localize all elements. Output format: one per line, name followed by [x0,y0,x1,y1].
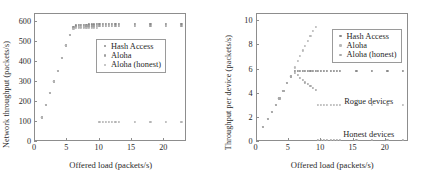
data-point [105,121,107,123]
x-tick-label: 20 [381,143,389,152]
y-tick-label: 600 [10,17,31,26]
y-tick [256,117,259,118]
y-tick [34,41,37,42]
legend-item: Aloha [100,51,161,60]
data-point [307,40,309,42]
y-tick-label: 0 [232,137,253,146]
data-point [98,25,100,27]
data-point [326,103,328,105]
data-point [320,70,322,72]
y-tick [256,69,259,70]
legend-dot-icon [104,64,106,66]
y-tick [34,121,37,122]
data-point [134,121,136,123]
data-point [302,49,304,51]
data-point [118,121,120,123]
y-tick-label: 200 [10,97,31,106]
data-point [329,70,331,72]
data-point [323,103,325,105]
data-point [386,139,388,141]
y-tick [256,44,259,45]
data-point [329,139,331,141]
data-point [271,111,273,113]
data-point [114,25,116,27]
legend-label: Hash Access [346,32,390,41]
data-point [282,90,284,92]
x-tick-label: 5 [286,143,290,152]
x-tick-label: 15 [127,143,135,152]
data-point [309,35,311,37]
chart-panel-right: Throughput per device (packets/s) 051015… [222,0,443,188]
y-tick [256,93,259,94]
data-point [304,45,306,47]
legend-label: Hash Access [110,42,154,51]
legend-dot-icon [104,45,106,47]
data-point [315,26,317,28]
data-point [278,97,280,99]
legend-marker-icon [100,64,110,66]
x-axis-label-left: Offered load (packets/s) [0,160,222,170]
y-tick-label: 8 [232,40,253,49]
data-point [108,121,110,123]
legend-item: Aloha (honest) [336,50,397,59]
legend-right: Hash AccessAlohaAloha (honest) [332,29,402,63]
data-point [68,34,70,36]
data-point [333,139,335,141]
data-point [267,118,269,120]
plot-area-left: 051015200100200300400500600 Hash AccessA… [34,13,186,141]
x-tick-label: 20 [159,143,167,152]
data-point [290,75,292,77]
x-tick [320,138,321,141]
data-point [333,103,335,105]
data-point [336,139,338,141]
data-point [57,70,59,72]
y-tick [34,141,37,142]
x-tick-label: 10 [95,143,103,152]
data-point [101,25,103,27]
data-point [371,70,373,72]
x-tick [288,138,289,141]
data-point [326,70,328,72]
x-tick [163,138,164,141]
data-point [294,66,296,68]
y-tick [34,61,37,62]
data-point [134,25,136,27]
legend-left: Hash AccessAlohaAloha (honest) [96,39,166,73]
y-tick-label: 100 [10,117,31,126]
data-point [114,121,116,123]
data-point [296,60,298,62]
data-point [402,139,404,141]
x-tick-label: 0 [32,143,36,152]
data-point [149,121,151,123]
data-point [355,139,357,141]
legend-marker-icon [100,54,110,56]
data-point [355,70,357,72]
data-point [274,104,276,106]
data-point [41,116,43,118]
x-axis-label-right: Offered load (packets/s) [222,160,443,170]
y-tick-label: 10 [232,16,253,25]
x-tick-label: 0 [253,143,257,152]
data-point [336,103,338,105]
y-tick-label: 4 [232,88,253,97]
legend-marker-icon [336,54,346,56]
chart-panel-left: Network throughput (packets/s) 051015200… [0,0,222,188]
data-point [402,70,404,72]
data-point [105,25,107,27]
legend-dot-icon [339,35,341,37]
legend-label: Aloha [110,51,131,60]
data-point [336,70,338,72]
data-point [371,139,373,141]
chart-annotation: Rogue devices [344,96,393,105]
y-tick-label: 500 [10,37,31,46]
data-point [111,25,113,27]
y-tick-label: 0 [10,137,31,146]
data-point [323,139,325,141]
data-point [98,121,100,123]
plot-area-right: 051015200246810 Hash AccessAlohaAloha (h… [256,13,408,141]
legend-marker-icon [336,35,346,37]
y-tick-label: 300 [10,77,31,86]
y-tick [256,20,259,21]
data-point [180,25,182,27]
data-point [165,121,167,123]
